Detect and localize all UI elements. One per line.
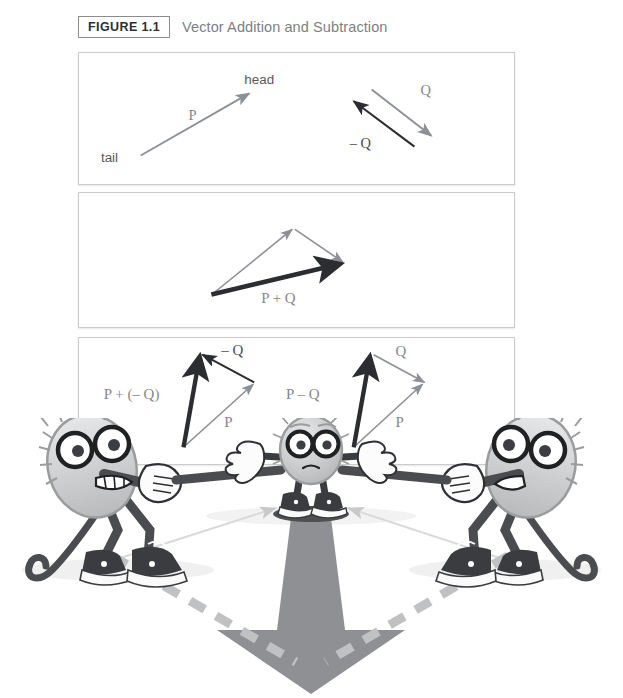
vector-definition-panel: tail head P Q – Q xyxy=(78,52,515,185)
figure-title: Vector Addition and Subtraction xyxy=(182,19,387,35)
label-tail: tail xyxy=(101,150,118,165)
vector-q-right xyxy=(374,355,425,383)
label-p-plus-negative-q: P + (– Q) xyxy=(104,386,160,403)
label-head: head xyxy=(244,72,274,87)
label-q: Q xyxy=(420,82,431,98)
vector-negative-q-left xyxy=(202,355,254,383)
cartoon-illustration xyxy=(0,418,623,698)
center-character-left-shoe xyxy=(278,492,314,518)
label-q-right: Q xyxy=(396,343,407,359)
label-negative-q-left: – Q xyxy=(220,342,243,358)
figure-header: FIGURE 1.1 Vector Addition and Subtracti… xyxy=(78,16,388,38)
center-character-right-shoe xyxy=(311,492,347,518)
vector-q-leg xyxy=(295,229,343,262)
figure-number-badge: FIGURE 1.1 xyxy=(78,16,170,38)
left-character-shoe-front xyxy=(127,541,187,587)
resultant-force-arrow xyxy=(217,510,405,694)
right-character-shoe-back xyxy=(491,550,543,585)
vector-addition-panel: P + Q xyxy=(78,192,515,328)
label-p: P xyxy=(188,107,196,123)
panel-2-diagram: P + Q xyxy=(79,193,514,327)
tug-of-war-cartoon xyxy=(0,418,623,698)
panel-1-diagram: tail head P Q – Q xyxy=(79,53,514,184)
center-character xyxy=(226,418,397,518)
right-character-shoe-front xyxy=(436,541,496,587)
label-p-plus-q: P + Q xyxy=(261,290,296,306)
label-negative-q: – Q xyxy=(349,135,372,151)
left-character-shoe-back xyxy=(80,550,132,585)
vector-p-arrow xyxy=(141,93,250,155)
label-p-minus-q: P – Q xyxy=(286,386,320,402)
